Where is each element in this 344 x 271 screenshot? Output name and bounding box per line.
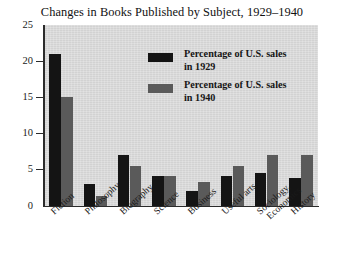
- y-axis-tick: [36, 97, 44, 98]
- legend-swatch: [148, 53, 173, 62]
- legend-swatch: [148, 84, 173, 93]
- legend-label: Percentage of U.S. salesin 1940: [184, 79, 287, 105]
- y-axis-tick: [36, 61, 44, 62]
- legend-label: Percentage of U.S. salesin 1929: [184, 48, 287, 74]
- chart-figure: Changes in Books Published by Subject, 1…: [0, 0, 344, 271]
- y-axis-tick-label: 0: [0, 201, 33, 212]
- y-axis-tick-label: 5: [0, 164, 33, 175]
- y-axis-tick-label: 10: [0, 128, 33, 139]
- y-axis-tick: [36, 133, 44, 134]
- bar: [49, 54, 61, 206]
- y-axis-tick-label: 15: [0, 92, 33, 103]
- chart-title: Changes in Books Published by Subject, 1…: [0, 5, 344, 20]
- y-axis-tick: [36, 169, 44, 170]
- y-axis-tick-label: 20: [0, 56, 33, 67]
- y-axis-tick-label: 25: [0, 20, 33, 31]
